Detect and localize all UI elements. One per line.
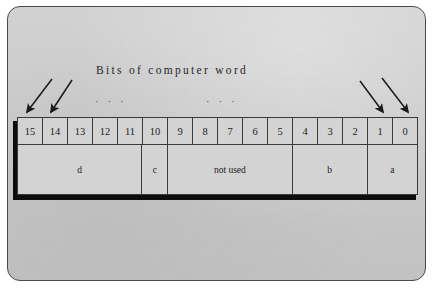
figure-title: Bits of computer word bbox=[96, 64, 248, 76]
bit-cell-1: 1 bbox=[368, 118, 393, 145]
bit-cell-10: 10 bbox=[143, 118, 168, 145]
bit-cell-11: 11 bbox=[118, 118, 143, 145]
bit-cell-15: 15 bbox=[18, 118, 43, 145]
field-cell-d: d bbox=[18, 145, 142, 194]
bit-cell-7: 7 bbox=[218, 118, 243, 145]
bit-cell-0: 0 bbox=[393, 118, 417, 145]
bit-cell-5: 5 bbox=[268, 118, 293, 145]
field-cell-a: a bbox=[368, 145, 417, 194]
field-cell-b: b bbox=[293, 145, 368, 194]
field-cell-c: c bbox=[142, 145, 168, 194]
bit-cell-14: 14 bbox=[43, 118, 68, 145]
ellipsis-right: · · · bbox=[206, 97, 238, 107]
bit-cell-13: 13 bbox=[68, 118, 93, 145]
bit-number-row: 15 14 13 12 11 10 9 8 7 6 5 4 3 2 1 0 bbox=[18, 118, 417, 145]
field-cell-not-used: not used bbox=[168, 145, 292, 194]
bit-cell-12: 12 bbox=[93, 118, 118, 145]
bit-cell-4: 4 bbox=[293, 118, 318, 145]
ellipsis-left: · · · bbox=[95, 97, 127, 107]
bit-cell-8: 8 bbox=[193, 118, 218, 145]
field-row: d c not used b a bbox=[18, 145, 417, 194]
figure-page: Bits of computer word · · · · · · 15 14 … bbox=[0, 0, 433, 289]
computer-word-table: 15 14 13 12 11 10 9 8 7 6 5 4 3 2 1 0 d … bbox=[17, 117, 418, 195]
bit-cell-6: 6 bbox=[243, 118, 268, 145]
bit-cell-2: 2 bbox=[343, 118, 368, 145]
bit-cell-3: 3 bbox=[318, 118, 343, 145]
bit-cell-9: 9 bbox=[168, 118, 193, 145]
